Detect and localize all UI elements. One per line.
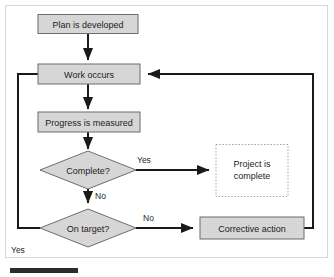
complete-decision-label: Complete? [66,166,110,176]
caption-rule-bar [10,268,78,273]
node-project-is-complete: Project is complete [216,145,288,197]
flowchart-canvas: Plan is developed Work occurs Progress i… [0,0,334,277]
flowchart-figure: Plan is developed Work occurs Progress i… [0,0,334,277]
project-is-complete-label-line2: complete [234,171,271,181]
plan-is-developed-label: Plan is developed [52,20,123,30]
edge-label-complete-no: No [95,191,106,201]
edge-label-on-target-yes: Yes [11,245,25,255]
edge-label-complete-yes: Yes [137,155,151,165]
corrective-action-label: Corrective action [218,224,286,234]
edge-label-on-target-no: No [143,213,154,223]
edge-on-target-yes-loop-to-work [18,74,68,228]
node-progress-is-measured: Progress is measured [38,112,140,132]
project-is-complete-label: Project is [233,159,271,169]
work-occurs-label: Work occurs [64,70,114,80]
on-target-decision-label: On target? [67,224,110,234]
node-on-target-decision: On target? [40,209,136,247]
progress-is-measured-label: Progress is measured [45,118,133,128]
node-corrective-action: Corrective action [200,217,304,239]
node-plan-is-developed: Plan is developed [38,15,138,34]
node-work-occurs: Work occurs [38,64,140,84]
node-complete-decision: Complete? [40,151,136,189]
